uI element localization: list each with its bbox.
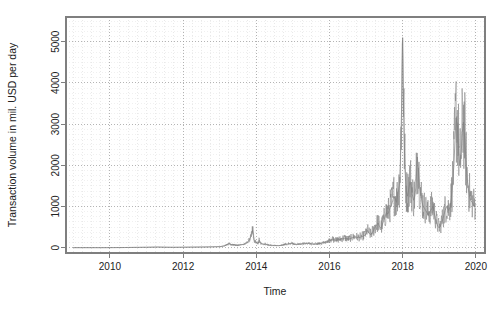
x-tick-label: 2020 — [465, 261, 488, 272]
x-tick-label: 2018 — [392, 261, 415, 272]
chart-figure: 201020122014201620182020 010002000300040… — [0, 0, 504, 315]
y-tick-label: 2000 — [50, 154, 61, 177]
y-axis-title: Transaction volume in mil. USD per day — [6, 42, 18, 227]
x-tick-label: 2012 — [172, 261, 195, 272]
y-tick-label: 4000 — [50, 71, 61, 94]
y-tick-label: 1000 — [50, 195, 61, 218]
x-tick-label: 2014 — [245, 261, 268, 272]
x-tick-label: 2016 — [318, 261, 341, 272]
y-tick-label: 3000 — [50, 113, 61, 136]
x-axis-title: Time — [264, 285, 287, 297]
x-tick-label: 2010 — [99, 261, 122, 272]
transaction-volume-line-chart: 201020122014201620182020 010002000300040… — [0, 0, 504, 315]
y-tick-label: 0 — [50, 244, 61, 250]
y-tick-label: 5000 — [50, 30, 61, 53]
